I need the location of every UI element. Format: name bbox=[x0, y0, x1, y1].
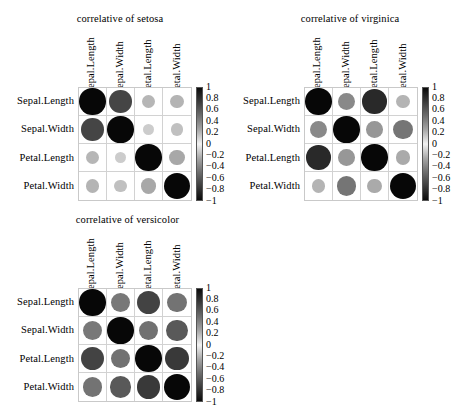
colorbar-tick-label: 0 bbox=[206, 339, 211, 350]
corr-circle bbox=[142, 95, 156, 109]
color-legend-virginica: 10.80.60.40.20−0.2−0.4−0.6−0.8−1 bbox=[422, 87, 456, 201]
colorbar-tick-label: 0.8 bbox=[432, 92, 445, 103]
corr-cell bbox=[163, 172, 191, 200]
colorbar-tick-label: −1 bbox=[206, 396, 217, 407]
colorbar-tick-label: 0.4 bbox=[206, 115, 219, 126]
corr-circle bbox=[396, 150, 411, 165]
corr-cell bbox=[107, 172, 135, 200]
corr-cell bbox=[79, 172, 107, 200]
corr-cell bbox=[163, 317, 191, 345]
colorbar-gradient bbox=[196, 288, 203, 402]
corr-circle bbox=[337, 176, 356, 195]
corr-circle bbox=[111, 293, 130, 312]
corr-circle bbox=[86, 179, 100, 193]
corr-panel-setosa: correlative of setosa Sepal.LengthSepal.… bbox=[0, 0, 230, 208]
corr-cell bbox=[361, 88, 389, 116]
corr-circle bbox=[170, 95, 184, 109]
corr-circle bbox=[137, 291, 160, 314]
colorbar-tick-label: −0.4 bbox=[206, 160, 224, 171]
corr-circle bbox=[83, 321, 102, 340]
corr-cell bbox=[107, 116, 135, 144]
corr-cell bbox=[333, 116, 361, 144]
panel-title-virginica: correlative of virginica bbox=[280, 13, 420, 24]
corr-cell bbox=[305, 144, 333, 172]
colorbar-tick-label: 0.2 bbox=[206, 126, 219, 137]
colorbar-tick-label: −0.4 bbox=[432, 160, 450, 171]
corr-circle bbox=[135, 345, 161, 371]
corr-cell bbox=[135, 373, 163, 401]
corr-circle bbox=[81, 118, 104, 141]
colorbar-tick-label: 0.2 bbox=[206, 327, 219, 338]
row-label-petal-length: Petal.Length bbox=[224, 152, 300, 163]
row-label-sepal-width: Sepal.Width bbox=[0, 324, 74, 335]
corr-circle bbox=[164, 173, 190, 199]
corr-cell bbox=[163, 88, 191, 116]
corr-cell bbox=[135, 345, 163, 373]
corr-circle bbox=[83, 377, 103, 397]
colorbar-tick-label: 1 bbox=[432, 81, 437, 92]
colorbar-tick-label: 0.6 bbox=[206, 304, 219, 315]
corr-cell bbox=[361, 172, 389, 200]
corr-cell bbox=[107, 373, 135, 401]
corr-panel-virginica: correlative of virginica Sepal.LengthSep… bbox=[230, 0, 461, 208]
corr-circle bbox=[107, 116, 133, 142]
corr-cell bbox=[333, 88, 361, 116]
corr-cell bbox=[389, 172, 417, 200]
colorbar-tick-label: 0.4 bbox=[432, 115, 445, 126]
corr-circle bbox=[79, 88, 105, 114]
corr-circle bbox=[143, 124, 154, 135]
corr-circle bbox=[169, 150, 184, 165]
colorbar-tick-label: 1 bbox=[206, 282, 211, 293]
corr-cell bbox=[135, 317, 163, 345]
corr-cell bbox=[79, 144, 107, 172]
column-header-sepal-length: Sepal.Length bbox=[85, 238, 96, 295]
corr-circle bbox=[81, 347, 104, 370]
row-label-petal-length: Petal.Length bbox=[0, 152, 74, 163]
corr-cell bbox=[135, 289, 163, 317]
corr-panel-versicolor: correlative of versicolor Sepal.LengthSe… bbox=[40, 205, 271, 417]
corr-circle bbox=[107, 317, 133, 343]
colorbar-tick-label: −0.8 bbox=[206, 384, 224, 395]
corr-circle bbox=[115, 152, 126, 163]
corr-cell bbox=[79, 88, 107, 116]
color-legend-versicolor: 10.80.60.40.20−0.2−0.4−0.6−0.8−1 bbox=[196, 288, 230, 402]
colorbar-tick-label: 0.8 bbox=[206, 92, 219, 103]
corr-cell bbox=[107, 144, 135, 172]
corr-circle bbox=[171, 123, 184, 136]
corr-circle bbox=[139, 321, 159, 341]
corr-cell bbox=[163, 289, 191, 317]
corr-circle bbox=[86, 151, 100, 165]
corr-cell bbox=[107, 317, 135, 345]
colorbar-tick-label: −1 bbox=[432, 195, 443, 206]
corr-circle bbox=[109, 90, 132, 113]
corr-circle bbox=[137, 375, 160, 398]
corr-cell bbox=[163, 373, 191, 401]
colorbar-tick-label: −0.8 bbox=[206, 183, 224, 194]
corr-cell bbox=[163, 345, 191, 373]
corr-circle bbox=[396, 95, 410, 109]
corr-cell bbox=[79, 345, 107, 373]
corr-cell bbox=[107, 88, 135, 116]
row-label-sepal-length: Sepal.Length bbox=[0, 296, 74, 307]
colorbar-tick-label: −0.2 bbox=[432, 149, 450, 160]
corr-circle bbox=[167, 293, 187, 313]
corr-circle bbox=[367, 179, 382, 194]
colorbar-tick-label: 0.2 bbox=[432, 126, 445, 137]
colorbar-tick-label: −1 bbox=[206, 195, 217, 206]
corr-grid-versicolor bbox=[78, 288, 192, 402]
corr-cell bbox=[79, 373, 107, 401]
colorbar-tick-label: −0.6 bbox=[206, 172, 224, 183]
row-label-sepal-width: Sepal.Width bbox=[224, 123, 300, 134]
corr-cell bbox=[135, 144, 163, 172]
corr-circle bbox=[390, 173, 416, 199]
colorbar-tick-label: 0.8 bbox=[206, 293, 219, 304]
corr-circle bbox=[338, 149, 355, 166]
colorbar-tick-label: −0.6 bbox=[432, 172, 450, 183]
corr-circle bbox=[110, 376, 131, 397]
column-header-petal-length: Petal.Length bbox=[142, 39, 153, 94]
corr-cell bbox=[361, 144, 389, 172]
row-label-petal-width: Petal.Width bbox=[224, 180, 300, 191]
colorbar-tick-label: −0.6 bbox=[206, 373, 224, 384]
corr-cell bbox=[333, 172, 361, 200]
colorbar-tick-label: −0.4 bbox=[206, 361, 224, 372]
